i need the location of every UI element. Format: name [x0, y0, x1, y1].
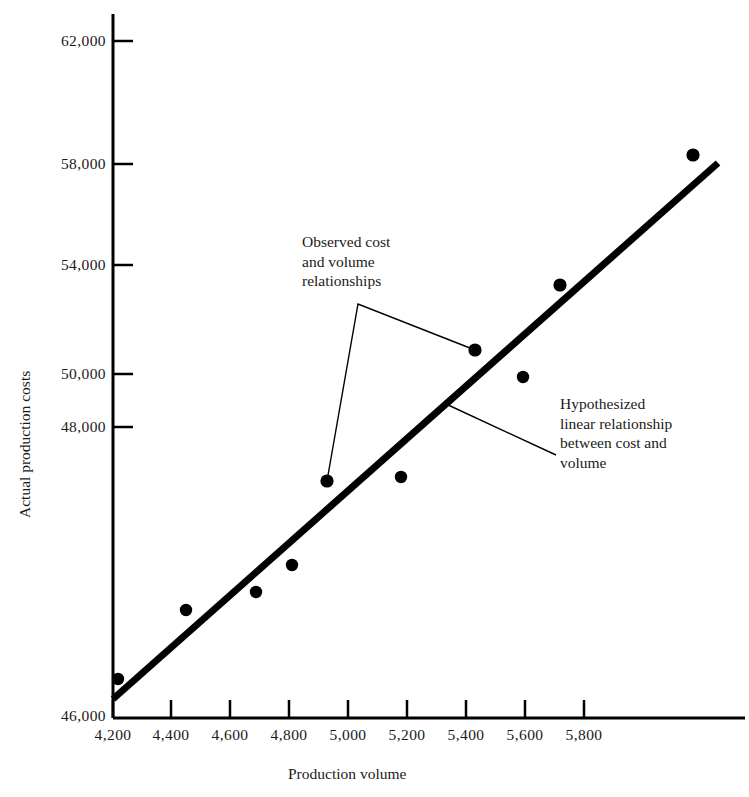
y-axis-title: Actual production costs: [16, 371, 34, 518]
y-tick-label-58000: 58,000: [44, 155, 106, 173]
data-point: [395, 471, 407, 483]
data-point: [320, 474, 333, 487]
y-tick-label-50000: 50,000: [44, 365, 106, 383]
y-tick-label-48000: 48,000: [44, 418, 106, 436]
x-axis-ticks: [113, 700, 584, 718]
observed-annotation: Observed cost and volume relationships: [302, 232, 390, 291]
data-point: [468, 343, 481, 356]
hypothesized-annotation-line-3: between cost and: [560, 433, 672, 453]
y-tick-label-54000: 54,000: [44, 256, 106, 274]
x-axis-title: Production volume: [288, 765, 406, 783]
observed-annotation-line-3: relationships: [302, 271, 390, 291]
scatter-plot-figure: 62,000 58,000 54,000 50,000 48,000 46,00…: [0, 0, 749, 797]
y-axis-ticks: [113, 41, 133, 427]
hypothesized-annotation-leader: [446, 404, 556, 455]
y-tick-label-46000: 46,000: [44, 707, 106, 725]
data-point: [553, 278, 566, 291]
data-point: [517, 371, 529, 383]
hypothesized-annotation-line-2: linear relationship: [560, 414, 672, 434]
data-point: [180, 604, 192, 616]
observed-annotation-leader: [327, 304, 475, 481]
data-point: [286, 559, 298, 571]
hypothesized-annotation-line-4: volume: [560, 453, 672, 473]
data-point: [112, 673, 124, 685]
hypothesized-annotation-line-1: Hypothesized: [560, 394, 672, 414]
x-tick-label-5800: 5,800: [544, 726, 624, 744]
hypothesized-annotation: Hypothesized linear relationship between…: [560, 394, 672, 472]
observed-annotation-line-1: Observed cost: [302, 232, 390, 252]
data-point: [250, 586, 262, 598]
observed-annotation-line-2: and volume: [302, 252, 390, 272]
y-tick-label-62000: 62,000: [44, 32, 106, 50]
data-point: [686, 148, 699, 161]
